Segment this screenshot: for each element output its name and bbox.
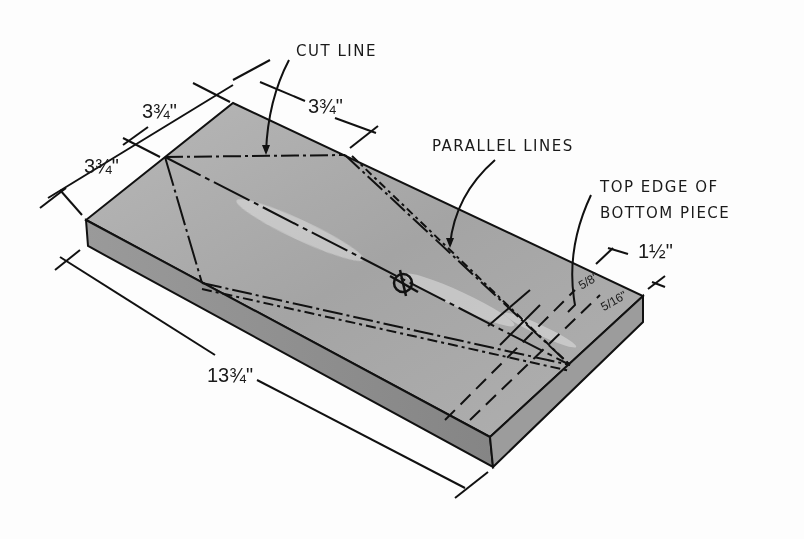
dim-top-left-upper: 3¾" (142, 100, 177, 123)
dim-top-right: 3¾" (308, 95, 343, 118)
parallel-lines-label: PARALLEL LINES (432, 137, 574, 156)
top-edge-label-1: TOP EDGE OF (600, 178, 719, 197)
top-edge-label-2: BOTTOM PIECE (600, 204, 730, 223)
woodworking-diagram: CUT LINE PARALLEL LINES TOP EDGE OF BOTT… (0, 0, 804, 539)
dim-top-left-lower: 3¾" (84, 155, 119, 178)
dim-length: 13¾" (207, 364, 253, 387)
cut-line-label: CUT LINE (296, 42, 377, 61)
board-drawing (0, 0, 804, 539)
dim-end-width: 1½" (638, 240, 673, 263)
